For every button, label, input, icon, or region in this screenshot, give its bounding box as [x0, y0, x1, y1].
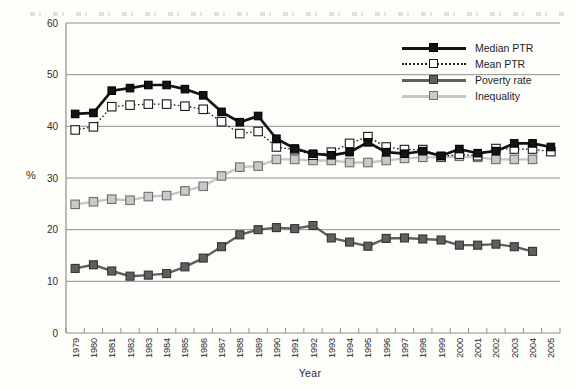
marker-median_ptr	[437, 152, 445, 160]
legend-sample-median_ptr	[402, 43, 466, 54]
x-tick-label: 1995	[363, 338, 373, 358]
marker-poverty_rate	[199, 254, 207, 262]
marker-poverty_rate	[236, 231, 244, 239]
marker-median_ptr	[273, 135, 281, 143]
marker-median_ptr	[364, 139, 372, 147]
marker-median_ptr	[254, 112, 262, 120]
marker-inequality	[492, 155, 501, 164]
x-tick-label: 1982	[126, 338, 136, 358]
marker-inequality	[181, 187, 190, 196]
marker-inequality	[345, 158, 354, 167]
marker-mean_ptr	[107, 102, 116, 111]
marker-poverty_rate	[218, 243, 226, 251]
marker-inequality	[71, 200, 80, 209]
marker-median_ptr	[474, 149, 482, 157]
marker-poverty_rate	[510, 243, 518, 251]
x-tick-label: 2003	[510, 338, 520, 358]
x-axis-title: Year	[50, 367, 570, 379]
x-tick-label: 1983	[144, 338, 154, 358]
marker-median_ptr	[328, 152, 336, 160]
marker-inequality	[510, 155, 519, 164]
legend-label-poverty_rate: Poverty rate	[475, 74, 532, 86]
legend-label-mean_ptr: Mean PTR	[475, 58, 525, 70]
marker-inequality	[382, 156, 391, 165]
y-tick-label: 60	[47, 18, 59, 29]
marker-median_ptr	[236, 118, 244, 126]
x-tick-label: 1990	[272, 338, 282, 358]
y-tick-label: 40	[47, 121, 59, 132]
marker-median_ptr	[547, 143, 555, 151]
legend-item-inequality: Inequality	[402, 88, 533, 104]
marker-mean_ptr	[345, 139, 354, 148]
marker-mean_ptr	[89, 123, 98, 132]
legend-marker-mean_ptr	[429, 59, 438, 68]
marker-mean_ptr	[162, 100, 171, 109]
legend-sample-inequality	[402, 91, 466, 102]
marker-poverty_rate	[474, 241, 482, 249]
legend-sample-poverty_rate	[402, 75, 466, 86]
marker-poverty_rate	[346, 238, 354, 246]
legend-sample-mean_ptr	[402, 59, 466, 70]
x-tick-label: 1997	[400, 338, 410, 358]
x-tick-label: 1991	[290, 338, 300, 358]
marker-median_ptr	[529, 140, 537, 148]
x-tick-label: 1979	[71, 338, 81, 358]
x-tick-label: 1985	[180, 338, 190, 358]
marker-poverty_rate	[254, 226, 262, 234]
marker-median_ptr	[456, 145, 464, 153]
series-inequality	[71, 152, 537, 209]
y-tick-label: 50	[47, 69, 59, 80]
marker-poverty_rate	[144, 271, 152, 279]
legend-item-mean_ptr: Mean PTR	[402, 56, 533, 72]
marker-poverty_rate	[291, 225, 299, 233]
marker-poverty_rate	[437, 236, 445, 244]
y-axis-unit-label: %	[26, 169, 36, 181]
marker-mean_ptr	[254, 127, 263, 136]
x-tick-label: 1986	[199, 338, 209, 358]
marker-poverty_rate	[272, 224, 280, 232]
x-tick-label: 1987	[217, 338, 227, 358]
marker-median_ptr	[181, 85, 189, 93]
marker-poverty_rate	[163, 270, 171, 278]
legend-item-median_ptr: Median PTR	[402, 40, 533, 56]
legend-item-poverty_rate: Poverty rate	[402, 72, 533, 88]
x-tick-label: 1998	[418, 338, 428, 358]
marker-poverty_rate	[309, 222, 317, 230]
marker-mean_ptr	[217, 117, 226, 126]
marker-inequality	[254, 162, 263, 171]
marker-median_ptr	[163, 81, 171, 89]
legend-marker-inequality	[429, 91, 438, 100]
marker-median_ptr	[71, 110, 79, 118]
x-tick-label: 1994	[345, 338, 355, 358]
marker-poverty_rate	[71, 264, 79, 272]
legend-label-median_ptr: Median PTR	[475, 42, 533, 54]
marker-median_ptr	[218, 108, 226, 116]
marker-poverty_rate	[126, 272, 134, 280]
marker-mean_ptr	[199, 105, 208, 114]
marker-poverty_rate	[327, 234, 335, 242]
marker-mean_ptr	[181, 102, 190, 111]
marker-mean_ptr	[236, 129, 245, 138]
marker-poverty_rate	[455, 241, 463, 249]
marker-median_ptr	[199, 92, 207, 100]
marker-median_ptr	[126, 84, 134, 92]
legend-marker-median_ptr	[429, 43, 438, 52]
x-tick-labels: 1979198019811982198319841985198619871988…	[71, 338, 557, 358]
marker-median_ptr	[492, 147, 500, 155]
marker-median_ptr	[145, 81, 153, 89]
marker-inequality	[217, 172, 226, 181]
x-tick-label: 1984	[162, 338, 172, 358]
x-tick-label: 2005	[546, 338, 556, 358]
y-tick-labels: 0102030405060	[47, 18, 59, 339]
marker-median_ptr	[346, 148, 354, 156]
marker-inequality	[199, 182, 208, 191]
x-tick-label: 2004	[528, 338, 538, 358]
marker-poverty_rate	[529, 247, 537, 255]
x-tick-label: 2000	[455, 338, 465, 358]
marker-poverty_rate	[419, 235, 427, 243]
marker-mean_ptr	[126, 101, 135, 110]
marker-mean_ptr	[144, 100, 153, 109]
x-tick-label: 1999	[437, 338, 447, 358]
marker-poverty_rate	[108, 267, 116, 275]
x-tick-label: 2002	[491, 338, 501, 358]
